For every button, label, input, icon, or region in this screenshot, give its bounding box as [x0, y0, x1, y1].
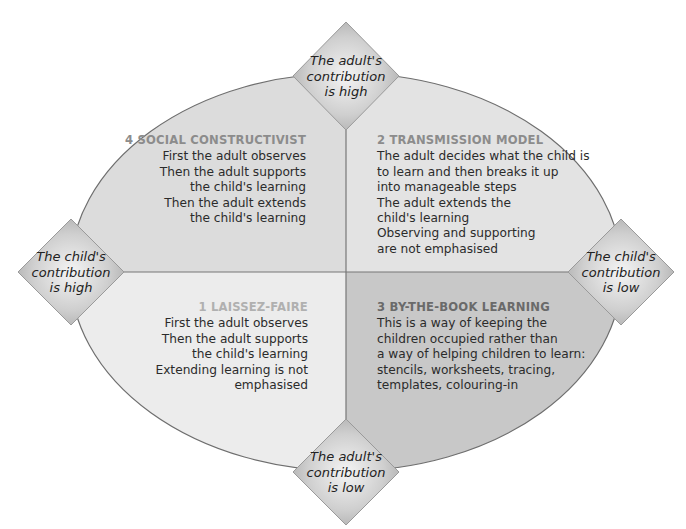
quadrant-line: a way of helping children to learn:: [377, 347, 585, 362]
quadrant-line: child's learning: [377, 211, 590, 226]
quadrant-line: First the adult observes: [125, 149, 306, 164]
quadrant-line: the child's learning: [155, 347, 308, 362]
quadrant-line: This is a way of keeping the: [377, 316, 585, 331]
quadrant-line: the child's learning: [125, 180, 306, 195]
quadrant-title: 1 LAISSEZ-FAIRE: [155, 300, 308, 315]
quadrant-line: into manageable steps: [377, 180, 590, 195]
axis-line: The adult's: [296, 53, 396, 69]
axis-line: contribution: [21, 265, 121, 281]
quadrant-line: Extending learning is not: [155, 363, 308, 378]
axis-line: contribution: [296, 69, 396, 85]
quadrant-title: 3 BY-THE-BOOK LEARNING: [377, 300, 585, 315]
quadrant-title: 2 TRANSMISSION MODEL: [377, 133, 590, 148]
axis-line: contribution: [296, 465, 396, 481]
quadrant-1-laissez-faire: 1 LAISSEZ-FAIRE First the adult observes…: [155, 300, 308, 393]
quadrant-title: 4 SOCIAL CONSTRUCTIVIST: [125, 133, 306, 148]
quadrant-line: Observing and supporting: [377, 226, 590, 241]
quadrant-line: The adult extends the: [377, 196, 590, 211]
quadrant-line: Then the adult extends: [125, 196, 306, 211]
quadrant-2-transmission-model: 2 TRANSMISSION MODEL The adult decides w…: [377, 133, 590, 257]
quadrant-4-social-constructivist: 4 SOCIAL CONSTRUCTIVIST First the adult …: [125, 133, 306, 226]
axis-line: contribution: [571, 265, 671, 281]
quadrant-line: stencils, worksheets, tracing,: [377, 363, 585, 378]
axis-label-child-high: The child's contribution is high: [21, 249, 121, 296]
quadrant-line: to learn and then breaks it up: [377, 165, 590, 180]
axis-label-adult-low: The adult's contribution is low: [296, 449, 396, 496]
quadrant-line: Then the adult supports: [155, 332, 308, 347]
axis-line: is low: [571, 280, 671, 296]
axis-line: is high: [21, 280, 121, 296]
quadrant-line: The adult decides what the child is: [377, 149, 590, 164]
quadrant-line: emphasised: [155, 378, 308, 393]
axis-line: is low: [296, 480, 396, 496]
quadrant-line: Then the adult supports: [125, 165, 306, 180]
quadrant-3-by-the-book-learning: 3 BY-THE-BOOK LEARNING This is a way of …: [377, 300, 585, 393]
quadrant-line: children occupied rather than: [377, 332, 585, 347]
axis-line: The child's: [21, 249, 121, 265]
axis-line: is high: [296, 84, 396, 100]
axis-line: The adult's: [296, 449, 396, 465]
axis-label-adult-high: The adult's contribution is high: [296, 53, 396, 100]
quadrant-line: the child's learning: [125, 211, 306, 226]
quadrant-line: First the adult observes: [155, 316, 308, 331]
quadrant-line: are not emphasised: [377, 242, 590, 257]
quadrant-line: templates, colouring-in: [377, 378, 585, 393]
